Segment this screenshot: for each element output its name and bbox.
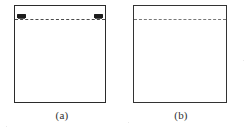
scan-speckle	[243, 60, 244, 61]
figure-panel-b: (b)	[131, 0, 231, 135]
panel-a-left-end-marker-icon	[17, 14, 26, 18]
panel-b-frame	[133, 5, 227, 103]
panel-a-frame	[14, 5, 106, 103]
panel-b-caption: (b)	[131, 108, 231, 122]
panel-a-dashed-interface-line	[15, 19, 105, 20]
panel-a-caption: (a)	[12, 108, 112, 122]
figure-panel-a: (a)	[12, 0, 112, 135]
panel-a-right-end-marker-icon	[94, 14, 103, 18]
scan-speckle	[6, 126, 7, 127]
panel-b-dashed-interface-line	[134, 19, 226, 20]
figure-root: (a) (b)	[0, 0, 250, 135]
scan-speckle	[128, 122, 129, 123]
